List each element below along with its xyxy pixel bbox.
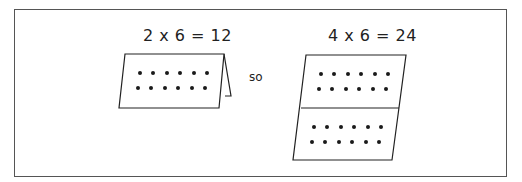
tent-front-face: [119, 54, 224, 108]
diagram-shapes: [0, 0, 522, 182]
left-tent-card: [119, 54, 231, 108]
right-dots-bottom: [310, 125, 383, 144]
tent-back-flap: [224, 54, 231, 96]
right-unfolded-card: [293, 55, 406, 160]
right-dots-top: [317, 72, 390, 91]
